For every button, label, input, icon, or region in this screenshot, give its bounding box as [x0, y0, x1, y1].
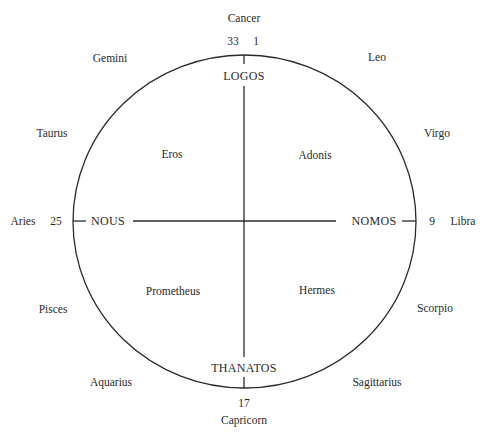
zodiac-label-aries: Aries: [11, 215, 36, 227]
zodiac-label-gemini: Gemini: [93, 52, 128, 64]
zodiac-label-capricorn: Capricorn: [221, 414, 267, 427]
zodiac-label-libra: Libra: [451, 215, 476, 227]
zodiac-label-pisces: Pisces: [39, 303, 68, 315]
zodiac-label-cancer: Cancer: [228, 12, 261, 24]
zodiac-label-sagittarius: Sagittarius: [352, 376, 402, 389]
number-9: 9: [429, 215, 435, 227]
zodiac-label-leo: Leo: [368, 51, 386, 63]
number-1: 1: [253, 35, 259, 47]
zodiac-label-scorpio: Scorpio: [417, 302, 453, 315]
number-25: 25: [50, 215, 62, 227]
axis-label-thanatos: THANATOS: [211, 361, 277, 375]
number-17: 17: [238, 397, 250, 409]
quadrant-label-prometheus: Prometheus: [146, 285, 201, 297]
zodiac-label-virgo: Virgo: [424, 127, 450, 140]
quadrant-label-adonis: Adonis: [298, 149, 332, 161]
diagram-canvas: LOGOS THANATOS NOUS NOMOS 33 1 17 25 9 E…: [0, 0, 487, 439]
axis-label-nous: NOUS: [91, 214, 125, 228]
number-33: 33: [227, 35, 239, 47]
zodiac-label-aquarius: Aquarius: [90, 376, 133, 389]
quadrant-label-eros: Eros: [161, 148, 183, 160]
axis-label-nomos: NOMOS: [352, 214, 397, 228]
zodiac-cross-diagram: LOGOS THANATOS NOUS NOMOS 33 1 17 25 9 E…: [0, 0, 487, 439]
axis-label-logos: LOGOS: [223, 69, 265, 83]
zodiac-label-taurus: Taurus: [36, 127, 68, 139]
quadrant-label-hermes: Hermes: [299, 284, 335, 296]
